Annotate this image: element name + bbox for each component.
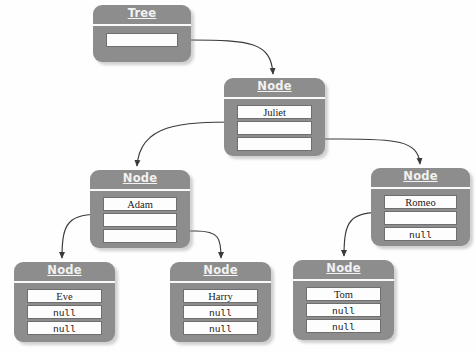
field-tom-data: Tom [306,287,381,301]
field-tom-right: null [306,319,381,333]
object-title-juliet: Node [224,78,325,96]
field-tom-left: null [306,303,381,317]
object-title-harry: Node [170,262,271,280]
object-title-tree: Tree [93,5,191,23]
object-box-juliet[interactable]: Node Juliet [224,78,325,156]
field-romeo-right: null [384,227,457,241]
field-list-romeo: Romeo null [371,189,470,249]
field-harry-data: Harry [183,289,258,303]
edge-juliet-right-to-romeo [340,139,420,164]
field-list-eve: Eve null null [14,283,115,343]
field-juliet-data: Juliet [237,105,312,119]
field-adam-left [103,213,177,227]
field-eve-data: Eve [27,289,102,303]
object-box-tree[interactable]: Tree [93,5,191,62]
field-juliet-left [237,121,312,135]
object-box-adam[interactable]: Node Adam [90,170,190,248]
field-list-tom: Tom null null [293,281,394,341]
field-romeo-left [384,211,457,225]
object-title-adam: Node [90,170,190,188]
field-adam-data: Adam [103,197,177,211]
field-list-juliet: Juliet [224,99,325,159]
field-list-adam: Adam [90,191,190,251]
edge-juliet-left-to-adam [137,122,238,166]
field-romeo-data: Romeo [384,195,457,209]
field-harry-left: null [183,305,258,319]
object-box-tom[interactable]: Node Tom null null [293,260,394,340]
field-list-harry: Harry null null [170,283,271,343]
edge-adam-right-to-harry [196,231,221,258]
field-list-tree [93,26,191,56]
field-eve-left: null [27,305,102,319]
diagram-canvas: Tree Node Juliet Node Adam Node Romeo nu… [0,0,476,352]
field-harry-right: null [183,321,258,335]
object-title-tom: Node [293,260,394,278]
edge-tree-root-to-juliet [190,40,273,74]
object-box-eve[interactable]: Node Eve null null [14,262,115,342]
object-box-romeo[interactable]: Node Romeo null [371,168,470,246]
object-box-harry[interactable]: Node Harry null null [170,262,271,342]
field-juliet-right [237,137,312,151]
field-adam-right [103,229,177,243]
object-title-eve: Node [14,262,115,280]
object-title-romeo: Node [371,168,470,186]
field-eve-right: null [27,321,102,335]
field-tree-root [106,33,178,47]
